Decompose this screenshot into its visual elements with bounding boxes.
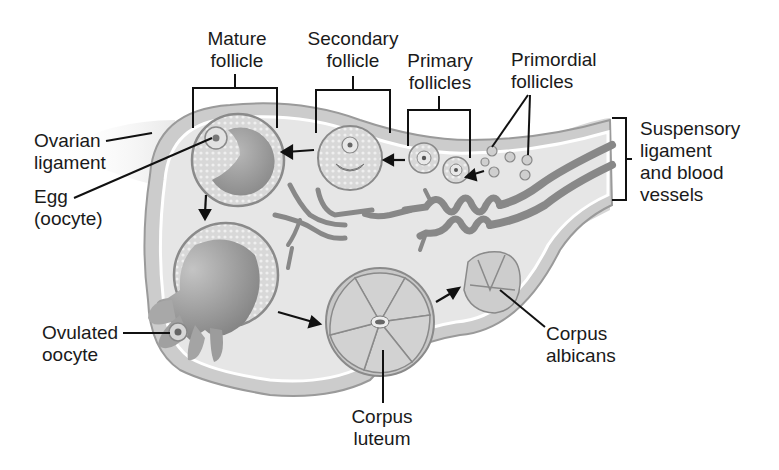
label-line: ligament (34, 152, 106, 174)
label-line: Corpus (546, 323, 616, 345)
label-line: Primary (404, 50, 476, 72)
label-line: Egg (34, 186, 103, 208)
label-line: oocyte (42, 344, 118, 366)
label-line: vessels (640, 184, 740, 206)
label-line: Primordial (511, 49, 597, 71)
label-line: and blood (640, 162, 740, 184)
label-line: follicles (404, 72, 476, 94)
mature-follicle (192, 114, 284, 206)
label-line: follicle (205, 50, 269, 72)
label-line: Corpus (344, 406, 420, 428)
label-line: Mature (205, 28, 269, 50)
label-ovulated-oocyte: Ovulated oocyte (42, 322, 118, 366)
label-line: Suspensory (640, 118, 740, 140)
corpus-luteum (326, 268, 434, 376)
secondary-follicle (318, 126, 382, 190)
label-line: Secondary (302, 28, 404, 50)
label-line: ligament (640, 140, 740, 162)
label-line: follicle (302, 50, 404, 72)
label-secondary-follicle: Secondary follicle (302, 28, 404, 72)
corpus-albicans (464, 252, 520, 313)
label-line: albicans (546, 345, 616, 367)
label-mature-follicle: Mature follicle (205, 28, 269, 72)
label-suspensory-ligament: Suspensory ligament and blood vessels (640, 118, 740, 206)
label-corpus-albicans: Corpus albicans (546, 323, 616, 367)
label-line: (oocyte) (34, 208, 103, 230)
label-primordial-follicles: Primordial follicles (511, 49, 597, 93)
label-primary-follicles: Primary follicles (404, 50, 476, 94)
label-corpus-luteum: Corpus luteum (344, 406, 420, 450)
label-line: follicles (511, 71, 597, 93)
ovulated-oocyte (169, 323, 187, 341)
label-line: Ovulated (42, 322, 118, 344)
label-line: Ovarian (34, 130, 106, 152)
label-line: luteum (344, 428, 420, 450)
label-egg: Egg (oocyte) (34, 186, 103, 230)
label-ovarian-ligament: Ovarian ligament (34, 130, 106, 174)
